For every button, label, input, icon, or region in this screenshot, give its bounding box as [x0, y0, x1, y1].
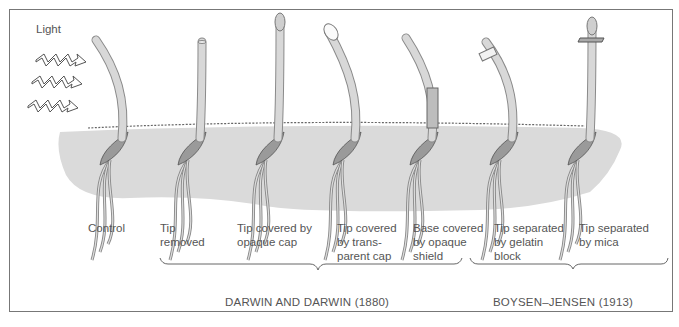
tip-cap [587, 17, 597, 35]
experiment-label-control: Control [88, 221, 125, 235]
phototropism-illustration [0, 0, 679, 327]
coleoptile [200, 42, 202, 138]
tip-cap [275, 13, 285, 31]
zigzag-light-arrow-icon [32, 76, 82, 88]
light-label: Light [36, 22, 61, 36]
experiment-label-mica: Tip separated by mica [579, 221, 649, 249]
experiment-label-opaque-shield: Base covered by opaque shield [413, 221, 483, 263]
cut-tip [198, 41, 206, 44]
coleoptile [278, 26, 280, 138]
experiment-label-transparent-cap: Tip covered by trans- parent cap [337, 221, 397, 263]
experiment-label-opaque-cap: Tip covered by opaque cap [237, 221, 312, 249]
zigzag-light-arrow-icon [28, 100, 78, 112]
mica-plate [578, 38, 604, 42]
group-label-darwin: DARWIN AND DARWIN (1880) [225, 296, 389, 308]
experiment-label-tip-removed: Tip removed [160, 221, 205, 249]
opaque-shield [427, 88, 438, 128]
light-arrows [28, 54, 86, 112]
experiment-label-gelatin-block: Tip separated by gelatin block [494, 221, 564, 263]
zigzag-light-arrow-icon [36, 54, 86, 66]
coleoptile [590, 30, 592, 138]
group-label-boysen-jensen: BOYSEN–JENSEN (1913) [493, 296, 633, 308]
